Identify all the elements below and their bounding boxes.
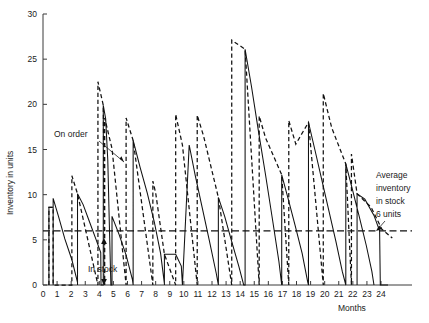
x-axis-title: Months: [338, 303, 366, 313]
on-order-annotation: On order: [54, 129, 124, 162]
x-tick-label: 12: [207, 289, 217, 299]
x-tick-label: 7: [139, 289, 144, 299]
in-stock-label: In stock: [88, 264, 118, 274]
y-tick-label: 10: [28, 190, 38, 200]
x-tick-label: 15: [250, 289, 260, 299]
average-label-line1: Average: [376, 170, 408, 180]
y-axis-group: 051015202530 Inventory in units: [5, 9, 47, 290]
x-tick-label: 5: [111, 289, 116, 299]
x-tick-label: 22: [348, 289, 358, 299]
x-axis-tick-labels: 0123456789101112131415161718192021222324: [41, 289, 386, 299]
average-label-line2: inventory: [376, 183, 411, 193]
x-tick-label: 1: [55, 289, 60, 299]
x-tick-label: 19: [306, 289, 316, 299]
x-tick-label: 24: [376, 289, 386, 299]
x-tick-label: 6: [125, 289, 130, 299]
y-tick-label: 5: [32, 235, 37, 245]
in-stock-series: [49, 49, 388, 285]
x-tick-label: 23: [362, 289, 372, 299]
x-axis-group: 0123456789101112131415161718192021222324…: [41, 281, 412, 313]
y-axis-title: Inventory in units: [5, 151, 15, 215]
average-label-line4: 6 units: [376, 209, 401, 219]
y-tick-label: 25: [28, 54, 38, 64]
x-tick-label: 3: [83, 289, 88, 299]
y-tick-label: 20: [28, 99, 38, 109]
x-tick-label: 20: [320, 289, 330, 299]
x-tick-label: 18: [292, 289, 302, 299]
average-inventory-annotation: Average inventory in stock 6 units: [376, 170, 411, 231]
series-group: [49, 40, 392, 285]
x-tick-label: 17: [278, 289, 288, 299]
y-axis-ticks: [43, 14, 47, 285]
x-tick-label: 9: [167, 289, 172, 299]
average-label-line3: in stock: [376, 196, 406, 206]
x-tick-label: 14: [235, 289, 245, 299]
x-tick-label: 13: [221, 289, 231, 299]
y-tick-label: 15: [28, 145, 38, 155]
in-stock-arrowhead-lower: [101, 279, 107, 285]
x-tick-label: 8: [153, 289, 158, 299]
chart-canvas: 051015202530 Inventory in units 01234567…: [0, 0, 429, 323]
x-tick-label: 11: [194, 289, 203, 299]
x-tick-label: 21: [334, 289, 344, 299]
x-tick-label: 16: [264, 289, 274, 299]
y-tick-label: 30: [28, 9, 38, 19]
x-tick-label: 2: [69, 289, 74, 299]
y-axis-tick-labels: 051015202530: [28, 9, 38, 290]
x-tick-label: 0: [41, 289, 46, 299]
on-order-series: [49, 40, 392, 285]
y-tick-label: 0: [32, 280, 37, 290]
in-stock-arrowhead-upper: [101, 238, 107, 244]
x-tick-label: 10: [179, 289, 189, 299]
inventory-chart: 051015202530 Inventory in units 01234567…: [0, 0, 429, 323]
x-tick-label: 4: [97, 289, 102, 299]
on-order-arrowhead: [120, 156, 124, 162]
on-order-label: On order: [54, 129, 88, 139]
x-axis-ticks: [57, 281, 381, 285]
